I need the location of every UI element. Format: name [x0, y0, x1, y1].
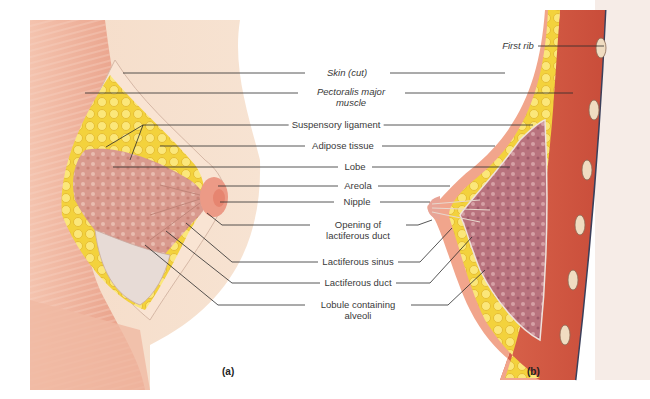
- label-opening-of-lactiferous-duct: Opening of lactiferous duct: [310, 219, 406, 241]
- label-areola: Areola: [341, 180, 374, 191]
- panel-b-illustration: [427, 0, 650, 380]
- label-suspensory-ligament: Suspensory ligament: [289, 119, 384, 130]
- label-skin-cut: Skin (cut): [324, 67, 370, 78]
- panel-label-a: (a): [222, 366, 234, 377]
- breast-anatomy-figure: [0, 0, 650, 399]
- panel-label-b: (b): [527, 366, 540, 377]
- label-lactiferous-sinus: Lactiferous sinus: [319, 256, 396, 267]
- label-lobule-containing-alveoli: Lobule containing alveoli: [305, 299, 411, 321]
- label-nipple: Nipple: [341, 196, 374, 207]
- label-first-rib: First rib: [499, 40, 537, 51]
- label-lobe: Lobe: [341, 161, 368, 172]
- label-lactiferous-duct: Lactiferous duct: [321, 277, 394, 288]
- panel-a-illustration: [30, 20, 260, 390]
- label-pectoralis-major-muscle: Pectoralis major muscle: [303, 86, 399, 108]
- label-adipose-tissue: Adipose tissue: [309, 140, 377, 151]
